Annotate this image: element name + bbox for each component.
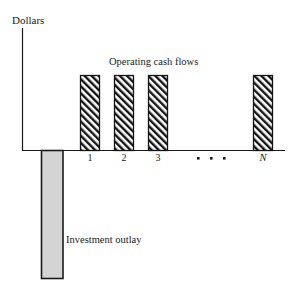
bar-period-2 [115, 76, 134, 151]
bar-period-n [254, 76, 273, 151]
bar-investment-outlay [42, 151, 64, 279]
x-tick-label-2: 2 [114, 153, 134, 163]
operating-cash-flows-label: Operating cash flows [109, 57, 198, 68]
bar-period-1 [81, 76, 100, 151]
y-axis-label: Dollars [12, 15, 44, 26]
investment-outlay-label: Investment outlay [66, 235, 142, 246]
x-tick-label-1: 1 [80, 153, 100, 163]
x-tick-label-3: 3 [148, 153, 168, 163]
cash-flow-timeline-figure: Dollars Operating cash flows Investment … [0, 0, 296, 299]
x-tick-label-n: N [253, 153, 273, 164]
bar-period-3 [149, 76, 168, 151]
ellipsis-dots-icon [197, 157, 226, 160]
cash-flow-chart-canvas [0, 0, 296, 299]
operating-cash-flow-bars [81, 76, 273, 151]
